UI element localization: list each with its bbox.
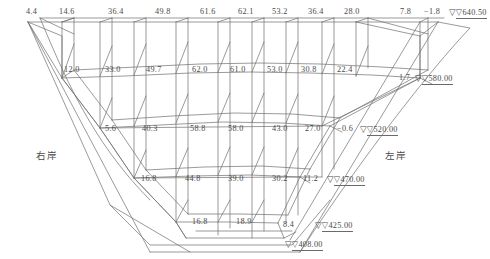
elevation-triangle-icon: ▽: [315, 220, 322, 230]
value-r5c2: 18.9: [236, 218, 252, 226]
diag-b4: [176, 42, 188, 73]
elevation-425: ▽▽425.00: [315, 221, 353, 230]
value-r3c2: 40.3: [142, 125, 158, 133]
right-fan-3: [368, 18, 428, 34]
right-bank-slope-mid: [28, 22, 190, 252]
col-top-3: [134, 18, 146, 22]
diag-d5: [218, 147, 230, 175]
value-r3-edge: −0.6: [337, 125, 353, 133]
diag-e5: [218, 200, 230, 222]
value-r5c1: 16.8: [192, 218, 208, 226]
elevation-640: ▽▽640.50: [449, 8, 487, 17]
value-r2c4: 62.0: [192, 66, 208, 74]
col-top-10: [420, 18, 428, 22]
value-r3c6: 27.0: [305, 125, 321, 133]
diag-c5: [218, 93, 230, 122]
diag-b6: [252, 42, 264, 72]
col-top-5: [218, 18, 230, 22]
left-fan-5: [100, 128, 134, 178]
col-top-4: [176, 18, 188, 22]
col-top-9: [356, 18, 368, 22]
value-r2c1: 12.0: [64, 66, 80, 74]
value-r2c2: 33.0: [105, 66, 121, 74]
value-r5-edge: 8.4: [283, 221, 294, 229]
diag-d6: [252, 147, 264, 175]
value-r3c4: 58.0: [228, 125, 244, 133]
left-fan-6: [134, 178, 176, 222]
diag-b9: [356, 46, 368, 76]
left-bank-curve: [300, 22, 470, 252]
value-r1c10: 7.8: [400, 8, 411, 16]
value-r1c4: 49.8: [155, 8, 171, 16]
value-r1c3: 36.4: [108, 8, 124, 16]
value-r1c9: 28.0: [344, 8, 360, 16]
elevation-408: ▽▽408.00: [285, 240, 323, 249]
value-r1c7: 53.2: [272, 8, 288, 16]
diag-d4: [176, 148, 188, 176]
diag-b7: [286, 42, 298, 73]
left-fan-3: [40, 18, 74, 34]
cross-section-diagram: 4.4 14.6 36.4 49.8 61.6 62.1 53.2 36.4 2…: [0, 0, 490, 259]
left-bank-slope-outer: [300, 22, 438, 252]
tick-425: [284, 232, 296, 238]
col-top-2: [100, 18, 112, 22]
value-r1c6: 62.1: [238, 8, 254, 16]
value-r4c1: 16.8: [141, 175, 157, 183]
elevation-triangle-icon: ▽: [285, 239, 292, 249]
value-r2-edge: 1.7: [399, 74, 410, 82]
value-r1c8: 36.4: [308, 8, 324, 16]
diag-c6: [252, 93, 264, 122]
right-fan-4: [322, 78, 420, 126]
value-r1c5: 61.6: [200, 8, 216, 16]
elevation-triangle-icon: ▽: [415, 73, 422, 83]
value-r4c2: 44.8: [185, 175, 201, 183]
value-r3c1: 5.6: [105, 125, 116, 133]
left-fan-4: [62, 78, 100, 128]
col-top-7: [286, 18, 298, 22]
left-fan-7: [176, 222, 186, 238]
diag-b3: [134, 44, 146, 75]
diag-c3: [134, 96, 146, 126]
row5-line-back: [188, 214, 288, 215]
value-r1c11: −1.8: [424, 8, 440, 16]
diag-b5: [218, 42, 230, 72]
value-r4-edge: 11.2: [303, 175, 318, 183]
value-r4c4: 30.2: [272, 175, 288, 183]
diag-c4: [176, 94, 188, 123]
diag-c8: [322, 96, 334, 126]
value-r3c3: 58.8: [190, 125, 206, 133]
value-r1c2: 14.6: [59, 8, 75, 16]
diag-a1: [62, 18, 74, 22]
elevation-580: ▽▽580.00: [415, 74, 453, 83]
diag-e6: [252, 200, 264, 222]
row2-line-back: [74, 63, 428, 70]
value-r2c6: 53.0: [267, 66, 283, 74]
value-r4c3: 39.0: [228, 175, 244, 183]
bank-label-left: 左岸: [385, 148, 407, 162]
elevation-triangle-icon: ▽: [327, 174, 334, 184]
row4-right-connector: [300, 126, 330, 177]
diag-b8: [322, 44, 334, 74]
elevation-triangle-icon: ▽: [449, 7, 456, 17]
elevation-520: ▽▽520.00: [360, 125, 398, 134]
value-r2c5: 61.0: [230, 66, 246, 74]
value-r2c8: 22.4: [337, 66, 353, 74]
diag-d7: [286, 148, 298, 176]
elevation-470: ▽▽470.00: [327, 175, 365, 184]
value-r3c5: 43.0: [272, 125, 288, 133]
row3-right-connector: [330, 78, 420, 126]
value-r2c7: 30.8: [301, 66, 317, 74]
elevation-triangle-icon: ▽: [360, 124, 367, 134]
diag-c7: [286, 94, 298, 123]
bank-label-right: 右岸: [36, 148, 58, 162]
row5-right-connector: [278, 177, 300, 223]
value-r1c1: 4.4: [26, 8, 37, 16]
row4-line-back: [146, 166, 310, 170]
col-top-8: [322, 18, 334, 22]
right-bank-curve: [40, 18, 150, 200]
value-r2c3: 49.7: [146, 66, 162, 74]
col-top-6: [252, 18, 264, 22]
